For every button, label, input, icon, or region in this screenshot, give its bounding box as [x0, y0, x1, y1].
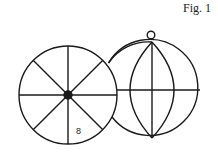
globe-outline [109, 39, 198, 135]
wheel-hub [64, 91, 72, 99]
segment-label: 8 [76, 126, 81, 136]
hanging-ring-icon [147, 31, 155, 39]
figure-diagram: 8 [0, 0, 218, 160]
globe-outline [109, 42, 153, 63]
wheel-diagram [19, 46, 117, 144]
globe-diagram [109, 31, 201, 138]
